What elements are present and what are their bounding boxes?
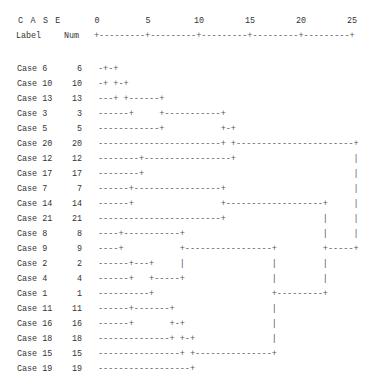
case-number: 6: [60, 64, 82, 74]
case-label: Case 14: [17, 199, 52, 209]
case-label: Case 19: [17, 364, 52, 374]
case-label: Case 17: [17, 169, 52, 179]
case-number: 4: [60, 274, 82, 284]
dendrogram-branch: --------------+ +-+ |: [98, 334, 277, 344]
dendrogram-row: Case 1515----------------+ +------------…: [0, 349, 373, 364]
case-label: Case 16: [17, 319, 52, 329]
case-label: Case 6: [17, 64, 47, 74]
case-number: 7: [60, 184, 82, 194]
axis-tick-0: 0: [94, 16, 99, 26]
case-number: 8: [60, 229, 82, 239]
case-number: 20: [60, 139, 82, 149]
case-number: 13: [60, 94, 82, 104]
case-number: 15: [60, 349, 82, 359]
case-label: Case 8: [17, 229, 47, 239]
dendrogram-row: Case 1212--------+-----------------+ |: [0, 154, 373, 169]
dendrogram-row: Case 22------+---+ | | |: [0, 259, 373, 274]
case-label: Case 13: [17, 94, 52, 104]
case-label: Case 4: [17, 274, 47, 284]
case-number: 17: [60, 169, 82, 179]
dendrogram-row: Case 1919------------------+: [0, 364, 373, 379]
case-number: 12: [60, 154, 82, 164]
case-number: 1: [60, 289, 82, 299]
case-label: Case 7: [17, 184, 47, 194]
dendrogram-row: Case 1616------+ +-+ |: [0, 319, 373, 334]
case-number: 18: [60, 334, 82, 344]
case-label: Case 2: [17, 259, 47, 269]
case-number: 5: [60, 124, 82, 134]
axis-tick-25: 25: [347, 16, 357, 26]
dendrogram-branch: ------+---+ | | |: [98, 259, 328, 269]
dendrogram-branch: -+-+: [98, 64, 118, 74]
dendrogram-branch: ----+ +-----------------+ +-----+: [98, 244, 359, 254]
dendrogram-row: Case 55------------+ +-+: [0, 124, 373, 139]
dendrogram-branch: ----------+ +---------+: [98, 289, 328, 299]
dendrogram-branch: ---+ +------+: [98, 94, 164, 104]
dendrogram-row: Case 44------+ +-----+ | |: [0, 274, 373, 289]
case-number: 2: [60, 259, 82, 269]
case-number: 21: [60, 214, 82, 224]
case-number: 11: [60, 304, 82, 314]
case-label: Case 9: [17, 244, 47, 254]
case-number: 10: [60, 79, 82, 89]
dendrogram-row: Case 33------+ +-----------+: [0, 109, 373, 124]
dendrogram-branch: ------------------+: [98, 364, 195, 374]
label-heading: Label: [16, 31, 41, 41]
dendrogram-branch: ------+-----------------+ |: [98, 184, 359, 194]
case-label: Case 1: [17, 289, 47, 299]
dendrogram-row: Case 11----------+ +---------+: [0, 289, 373, 304]
axis-line: +---------+---------+---------+---------…: [94, 31, 355, 41]
axis-tick-15: 15: [245, 16, 255, 26]
dendrogram-row: Case 2121------------------------+ | |: [0, 214, 373, 229]
dendrogram-branch: ----------------+ +---------------+: [98, 349, 277, 359]
case-label: Case 15: [17, 349, 52, 359]
dendrogram-branch: ------+ +-+ |: [98, 319, 277, 329]
dendrogram-row: Case 2020------------------------+ +----…: [0, 139, 373, 154]
case-label: Case 10: [17, 79, 52, 89]
case-label: Case 3: [17, 109, 47, 119]
case-label: Case 12: [17, 154, 52, 164]
dendrogram-branch: --------+ |: [98, 169, 359, 179]
case-number: 9: [60, 244, 82, 254]
dendrogram-branch: ------------------------+ | |: [98, 214, 359, 224]
case-label: Case 21: [17, 214, 52, 224]
axis-tick-5: 5: [145, 16, 150, 26]
dendrogram-branch: ------+-------+ |: [98, 304, 277, 314]
dendrogram-row: Case 66-+-+: [0, 64, 373, 79]
case-label: Case 5: [17, 124, 47, 134]
dendrogram-branch: ------+ +-----------+: [98, 109, 226, 119]
dendrogram-row: Case 99----+ +-----------------+ +-----+: [0, 244, 373, 259]
dendrogram-row: Case 1414------+ +-------------------+ |: [0, 199, 373, 214]
axis-tick-10: 10: [194, 16, 204, 26]
dendrogram-row: Case 1111------+-------+ |: [0, 304, 373, 319]
dendrogram-row: Case 1313---+ +------+: [0, 94, 373, 109]
case-header: C A S E: [18, 16, 62, 26]
case-number: 3: [60, 109, 82, 119]
dendrogram-branch: ------------+ +-+: [98, 124, 236, 134]
dendrogram-row: Case 1010-+ +-+: [0, 79, 373, 94]
case-number: 19: [60, 364, 82, 374]
dendrogram-branch: ------+ +-------------------+ |: [98, 199, 359, 209]
case-label: Case 18: [17, 334, 52, 344]
dendrogram-branch: -+ +-+: [98, 79, 129, 89]
case-label: Case 11: [17, 304, 52, 314]
dendrogram-branch: ------------------------+ +-------------…: [98, 139, 359, 149]
dendrogram-branch: ----+-----------+ | |: [98, 229, 359, 239]
case-label: Case 20: [17, 139, 52, 149]
num-heading: Num: [64, 31, 79, 41]
dendrogram-row: Case 77------+-----------------+ |: [0, 184, 373, 199]
dendrogram-row: Case 1717--------+ |: [0, 169, 373, 184]
axis-tick-20: 20: [296, 16, 306, 26]
dendrogram-branch: --------+-----------------+ |: [98, 154, 359, 164]
dendrogram-row: Case 88----+-----------+ | |: [0, 229, 373, 244]
dendrogram-branch: ------+ +-----+ | |: [98, 274, 328, 284]
case-number: 16: [60, 319, 82, 329]
case-number: 14: [60, 199, 82, 209]
dendrogram-row: Case 1818--------------+ +-+ |: [0, 334, 373, 349]
